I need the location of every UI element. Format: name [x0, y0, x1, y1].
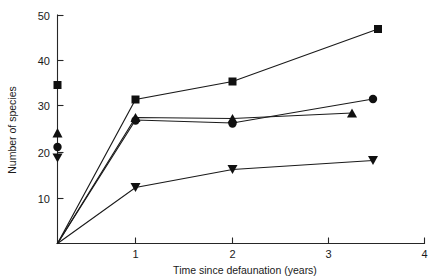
axes — [57, 15, 425, 244]
y-tick-label-10: 10 — [38, 193, 50, 205]
line-chart: 50 40 30 20 10 1 2 3 4 Time since defaun… — [0, 0, 437, 280]
series-circle-line — [58, 99, 374, 244]
marker-triangle-up-baseline — [53, 128, 63, 138]
x-axis-title: Time since defaunation (years) — [173, 264, 317, 276]
series-square-line — [58, 29, 379, 244]
series-square-markers — [54, 25, 383, 104]
x-tick-label-1: 1 — [132, 248, 138, 260]
marker-square — [132, 96, 140, 104]
x-tick-label-3: 3 — [325, 248, 331, 260]
x-axis-tick-labels: 1 2 3 4 — [132, 248, 427, 260]
series-triangle-up-markers — [53, 109, 358, 138]
marker-circle — [228, 119, 236, 127]
chart-figure: 50 40 30 20 10 1 2 3 4 Time since defaun… — [0, 0, 437, 280]
marker-square-baseline — [54, 81, 62, 89]
marker-circle — [369, 95, 377, 103]
marker-square — [374, 25, 382, 33]
series-triangle-up-line — [58, 113, 353, 244]
marker-triangle-down-baseline — [53, 154, 63, 163]
marker-circle — [131, 116, 139, 124]
y-tick-label-20: 20 — [38, 147, 50, 159]
series-triangle-down-line — [58, 161, 374, 244]
marker-square — [229, 78, 237, 86]
y-tick-label-40: 40 — [38, 55, 50, 67]
x-axis-ticks — [136, 238, 425, 244]
y-axis-ticks — [58, 16, 64, 199]
marker-circle-baseline — [53, 143, 61, 151]
y-axis-tick-labels: 50 40 30 20 10 — [38, 10, 50, 205]
x-tick-label-2: 2 — [229, 248, 235, 260]
y-tick-label-30: 30 — [38, 100, 50, 112]
series-paths — [58, 29, 379, 244]
x-tick-label-4: 4 — [421, 248, 427, 260]
y-axis-title: Number of species — [6, 86, 18, 174]
y-tick-label-50: 50 — [38, 10, 50, 22]
